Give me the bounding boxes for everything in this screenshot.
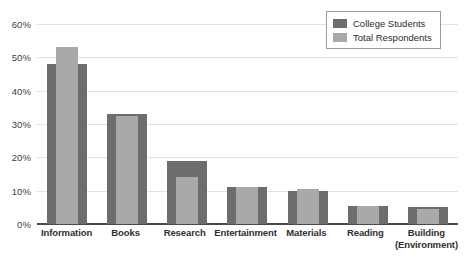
bar-group bbox=[278, 24, 338, 224]
legend-label-college-students: College Students bbox=[353, 18, 425, 29]
bar-total-respondents bbox=[56, 47, 78, 224]
bar-total-respondents bbox=[176, 177, 198, 224]
y-axis-tick-label: 30% bbox=[12, 119, 31, 130]
x-axis-label: Information bbox=[37, 227, 96, 251]
bar-total-respondents bbox=[236, 187, 258, 224]
y-axis-tick-label: 0% bbox=[17, 219, 31, 230]
y-axis-tick-label: 10% bbox=[12, 185, 31, 196]
bar-total-respondents bbox=[297, 189, 319, 224]
bar-group bbox=[217, 24, 277, 224]
bar-total-respondents bbox=[116, 116, 138, 224]
bar-chart: 0%10%20%30%40%50%60% InformationBooksRes… bbox=[0, 0, 466, 267]
y-axis-tick-label: 40% bbox=[12, 85, 31, 96]
bar-total-respondents bbox=[417, 209, 439, 224]
bar-group bbox=[157, 24, 217, 224]
legend-item-college-students: College Students bbox=[333, 16, 432, 30]
legend-swatch-college-students bbox=[333, 19, 347, 28]
x-axis-label: Materials bbox=[277, 227, 336, 251]
y-axis-tick-label: 20% bbox=[12, 152, 31, 163]
bar-groups bbox=[37, 24, 458, 224]
legend-item-total-respondents: Total Respondents bbox=[333, 30, 432, 44]
y-axis-tick-label: 60% bbox=[12, 19, 31, 30]
x-axis-label: Reading bbox=[336, 227, 395, 251]
plot-area: 0%10%20%30%40%50%60% bbox=[37, 24, 458, 224]
bar-group bbox=[338, 24, 398, 224]
x-axis-label: Books bbox=[96, 227, 155, 251]
x-axis-label: Research bbox=[155, 227, 214, 251]
chart-legend: College Students Total Respondents bbox=[326, 11, 441, 49]
bar-total-respondents bbox=[357, 206, 379, 224]
bar-group bbox=[97, 24, 157, 224]
bar-group bbox=[37, 24, 97, 224]
x-axis-label: Building(Environment) bbox=[395, 227, 458, 251]
legend-label-total-respondents: Total Respondents bbox=[353, 32, 432, 43]
y-axis-tick-label: 50% bbox=[12, 52, 31, 63]
bar-group bbox=[398, 24, 458, 224]
x-axis-label: Entertainment bbox=[214, 227, 277, 251]
x-axis-category-labels: InformationBooksResearchEntertainmentMat… bbox=[37, 227, 458, 251]
legend-swatch-total-respondents bbox=[333, 33, 347, 42]
